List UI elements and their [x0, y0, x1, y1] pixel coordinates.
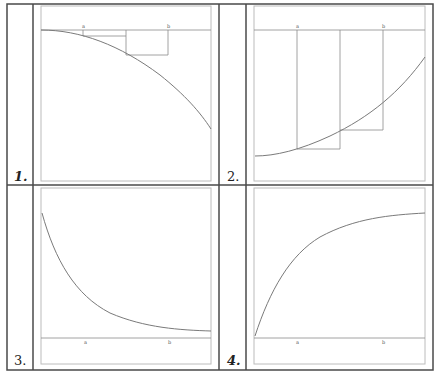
panel-4-tick-b: b [382, 339, 385, 345]
panel-3-curve [42, 213, 211, 331]
panel-1-label: 1. [14, 169, 28, 184]
panel-3-label: 3. [14, 353, 26, 368]
panel-3-tick-a: a [84, 339, 87, 345]
panel-3-tick-b: b [168, 339, 171, 345]
outer-frame [7, 4, 433, 370]
figure-grid: a b 1. a b 2. a b 3. a b 4. [0, 0, 442, 373]
panel-4-label: 4. [227, 353, 241, 368]
panel-2-label: 2. [227, 169, 239, 184]
panel-4-tick-a: a [296, 339, 299, 345]
panel-1-rectangles [83, 30, 168, 55]
panel-1-tick-b: b [167, 23, 170, 29]
panel-4-curve [255, 213, 425, 336]
panel-2: a b 2. [227, 6, 425, 184]
panel-4: a b 4. [227, 188, 425, 368]
panel-3: a b 3. [14, 188, 211, 368]
panel-1-tick-a: a [82, 23, 85, 29]
panel-2-tick-b: b [382, 23, 385, 29]
panel-2-plot-frame [254, 6, 425, 181]
panel-1: a b 1. [14, 6, 211, 184]
panel-2-tick-a: a [296, 23, 299, 29]
